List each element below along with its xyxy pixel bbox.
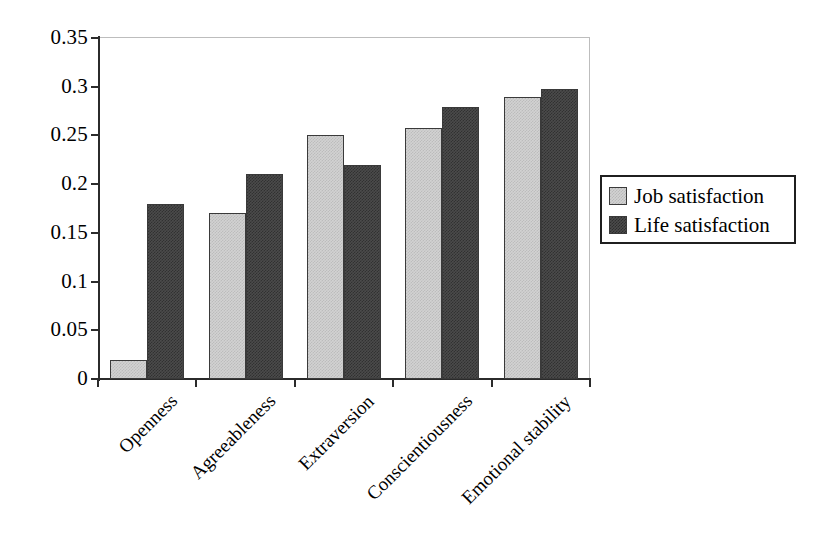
y-axis-tick-label: 0.35 [0,27,88,48]
y-axis-tick-label-text: 0.1 [2,271,88,292]
y-axis-tick-label-text: 0.2 [2,173,88,194]
bar-life-satisfaction [344,165,381,379]
y-axis-tick [91,134,98,136]
y-axis-tick [91,37,98,39]
bar-job-satisfaction [307,135,344,379]
x-axis-tick [294,379,296,387]
bar-job-satisfaction [405,128,442,379]
bar-job-satisfaction [504,97,541,379]
y-axis-tick-label-text: 0.35 [2,27,88,48]
y-axis-tick-label-text: 0 [2,368,88,389]
y-axis-tick [91,86,98,88]
y-axis-tick [91,183,98,185]
bar-job-satisfaction [110,360,147,379]
y-axis-tick-label: 0.3 [0,76,88,97]
bar-job-satisfaction [209,213,246,379]
y-axis-tick-label: 0.15 [0,222,88,243]
y-axis-tick-label-text: 0.05 [2,319,88,340]
y-axis-tick-label: 0.2 [0,173,88,194]
light-gray-swatch-icon [609,187,627,205]
y-axis-tick-label-text: 0.15 [2,222,88,243]
legend-item-label: Job satisfaction [634,186,764,207]
x-axis-category-label: Openness [115,391,181,457]
x-axis-tick [589,379,591,387]
y-axis-tick-label: 0.05 [0,319,88,340]
x-axis-category-label: Conscientiousness [363,391,476,504]
bar-chart: 00.050.10.150.20.250.30.35 OpennessAgree… [0,0,823,549]
legend: Job satisfaction Life satisfaction [600,175,796,244]
y-axis-tick [91,281,98,283]
x-axis-tick [97,379,99,387]
y-axis-tick-label-text: 0.3 [2,76,88,97]
plot-frame-top [98,37,590,38]
y-axis-tick-label: 0.1 [0,271,88,292]
y-axis-tick [91,232,98,234]
y-axis-tick [91,329,98,331]
y-axis-tick-label: 0 [0,368,88,389]
plot-frame-right [589,38,590,379]
y-axis-tick-label-text: 0.25 [2,124,88,145]
legend-item-life-satisfaction: Life satisfaction [609,211,770,239]
x-axis-category-label: Emotional stability [458,391,574,507]
legend-item-job-satisfaction: Job satisfaction [609,182,764,210]
bar-life-satisfaction [541,89,578,379]
y-axis-line [98,36,100,381]
x-axis-category-label: Agreeableness [187,391,279,483]
x-axis-tick [491,379,493,387]
legend-item-label: Life satisfaction [634,215,770,236]
bar-life-satisfaction [246,174,283,379]
x-axis-category-label: Extraversion [295,391,377,473]
bar-life-satisfaction [147,204,184,379]
y-axis-tick-label: 0.25 [0,124,88,145]
bar-life-satisfaction [442,107,479,379]
x-axis-tick [195,379,197,387]
dark-gray-swatch-icon [609,216,627,234]
x-axis-tick [392,379,394,387]
